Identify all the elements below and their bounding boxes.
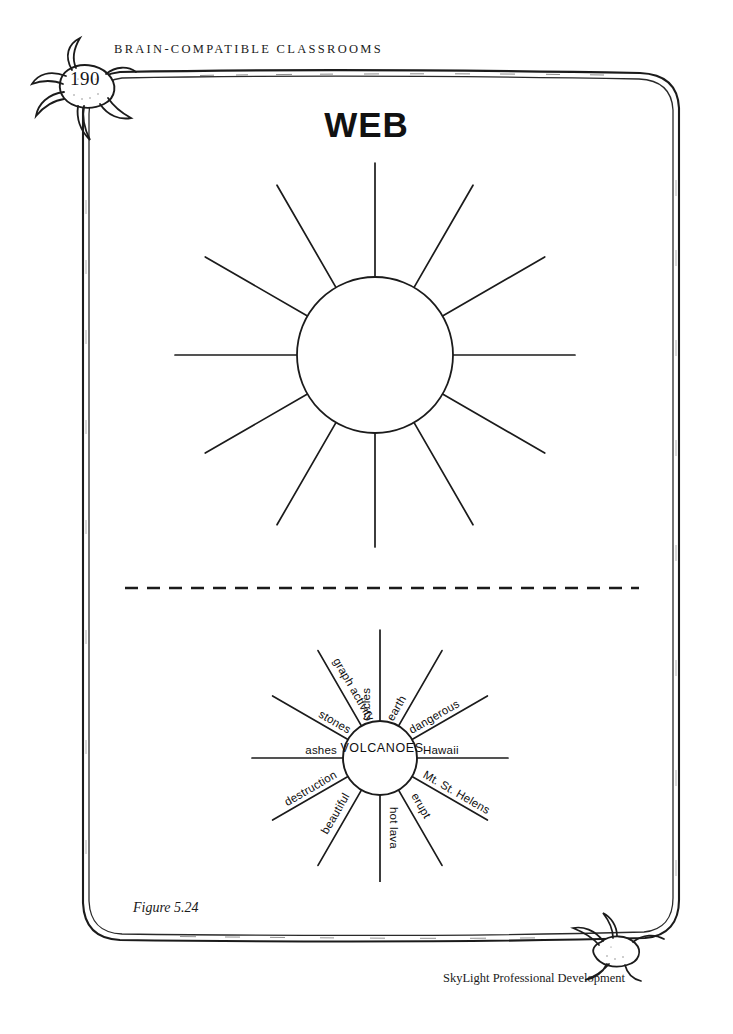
blank-web-spoke: [442, 394, 545, 454]
blank-web-spoke: [277, 422, 337, 525]
section-divider: [124, 586, 640, 590]
example-web-spoke-label: Hawaii: [423, 744, 459, 756]
example-web-center-label: VOLCANOES: [248, 741, 516, 755]
worksheet-page: 190 BRAIN-COMPATIBLE CLASSROOMS WEB VOLC…: [0, 0, 733, 1034]
blank-web-spoke: [205, 257, 308, 317]
blank-web-spoke: [414, 422, 474, 525]
example-web-center-circle: [343, 721, 417, 795]
blank-web-spoke: [414, 185, 474, 288]
example-web-spoke-label: ashes: [305, 744, 337, 756]
blank-web-spoke: [205, 394, 308, 454]
running-head: BRAIN-COMPATIBLE CLASSROOMS: [114, 42, 383, 57]
blank-web-template: [140, 155, 610, 585]
example-web-volcanoes: VOLCANOES cyclesearthdangerousHawaiiMt. …: [248, 618, 516, 882]
example-web-spoke-label: hot lava: [388, 807, 400, 849]
blank-web-spoke: [277, 185, 337, 288]
page-title: WEB: [0, 105, 733, 145]
page-number: 190: [62, 68, 108, 90]
figure-caption: Figure 5.24: [133, 900, 199, 916]
blank-web-spoke: [442, 257, 545, 317]
blank-web-center-circle: [297, 277, 453, 433]
footer-credit: SkyLight Professional Development: [443, 971, 625, 986]
